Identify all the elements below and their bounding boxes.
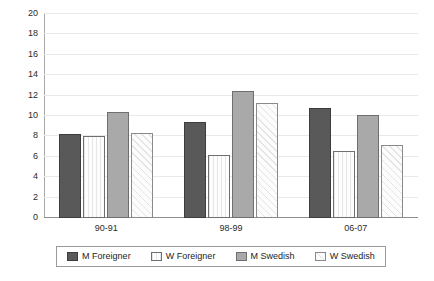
bar — [357, 115, 379, 218]
bar — [333, 151, 355, 218]
bar — [107, 112, 129, 218]
legend-swatch-icon — [236, 252, 247, 261]
bar-group — [44, 14, 169, 218]
bar — [83, 136, 105, 218]
y-axis-tick-label: 12 — [8, 91, 38, 100]
legend-item[interactable]: W Foreigner — [151, 252, 216, 261]
x-axis-tick-label: 98-99 — [169, 221, 294, 237]
bar — [256, 103, 278, 218]
bar — [381, 145, 403, 218]
x-axis-labels: 90-9198-9906-07 — [44, 221, 418, 237]
bar-group — [169, 14, 294, 218]
bar — [208, 155, 230, 218]
bar — [131, 133, 153, 218]
x-axis-tick-label: 06-07 — [293, 221, 418, 237]
legend-swatch-icon — [151, 252, 162, 261]
legend-item[interactable]: M Swedish — [236, 252, 295, 261]
bar — [232, 91, 254, 219]
legend-item-label: M Swedish — [251, 252, 295, 261]
chart-legend: M ForeignerW ForeignerM SwedishW Swedish — [56, 246, 386, 267]
y-axis-tick-label: 10 — [8, 111, 38, 120]
bar — [184, 122, 206, 218]
legend-swatch-icon — [315, 252, 326, 261]
y-axis-tick-label: 0 — [8, 213, 38, 222]
legend-item-label: W Swedish — [330, 252, 375, 261]
x-axis-tick-label: 90-91 — [44, 221, 169, 237]
legend-item-label: M Foreigner — [82, 252, 131, 261]
y-axis-tick-label: 4 — [8, 172, 38, 181]
legend-item[interactable]: M Foreigner — [67, 252, 131, 261]
y-axis-tick-label: 14 — [8, 70, 38, 79]
legend-item[interactable]: W Swedish — [315, 252, 375, 261]
y-axis-tick-label: 18 — [8, 29, 38, 38]
bar — [59, 134, 81, 218]
bar-chart: 02468101214161820 90-9198-9906-07 M Fore… — [0, 0, 434, 281]
bar-groups — [44, 14, 418, 218]
y-axis-tick-label: 16 — [8, 50, 38, 59]
legend-swatch-icon — [67, 252, 78, 261]
bar-group — [293, 14, 418, 218]
plot-area — [44, 14, 418, 218]
y-axis-tick-label: 8 — [8, 131, 38, 140]
y-axis-tick-label: 20 — [8, 9, 38, 18]
y-axis: 02468101214161820 — [4, 14, 38, 218]
y-axis-tick-label: 2 — [8, 193, 38, 202]
y-axis-tick-label: 6 — [8, 152, 38, 161]
bar — [309, 108, 331, 218]
legend-item-label: W Foreigner — [166, 252, 216, 261]
